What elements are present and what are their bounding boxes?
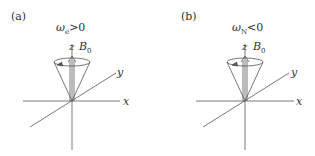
panel-a-graphic — [23, 44, 120, 150]
precession-arrow-icon — [232, 62, 238, 66]
panel-a-label: (a) — [11, 11, 26, 22]
z-axis-label: z — [242, 42, 247, 52]
precession-diagram — [0, 0, 315, 156]
panel-b-label: (b) — [181, 11, 197, 22]
condition-relation: <0 — [247, 21, 263, 34]
field-label: B0 — [253, 41, 266, 55]
field-subscript: 0 — [261, 47, 265, 55]
y-axis — [203, 73, 289, 127]
y-axis-label: y — [117, 67, 123, 78]
field-symbol: B — [79, 40, 87, 53]
field-label: B0 — [79, 41, 92, 55]
panel-b-condition: ωN<0 — [232, 22, 263, 36]
omega-symbol: ω — [56, 21, 65, 34]
omega-symbol: ω — [232, 21, 241, 34]
panel-b-graphic — [196, 44, 294, 150]
field-symbol: B — [253, 40, 261, 53]
z-axis-label: z — [69, 42, 74, 52]
precession-arrow-icon — [57, 62, 63, 66]
x-axis-label: x — [296, 96, 302, 107]
panel-a-condition: ωe>0 — [56, 22, 85, 36]
x-axis-label: x — [123, 96, 129, 107]
y-axis — [30, 73, 116, 127]
field-subscript: 0 — [87, 47, 91, 55]
condition-relation: >0 — [69, 21, 85, 34]
y-axis-label: y — [291, 67, 297, 78]
